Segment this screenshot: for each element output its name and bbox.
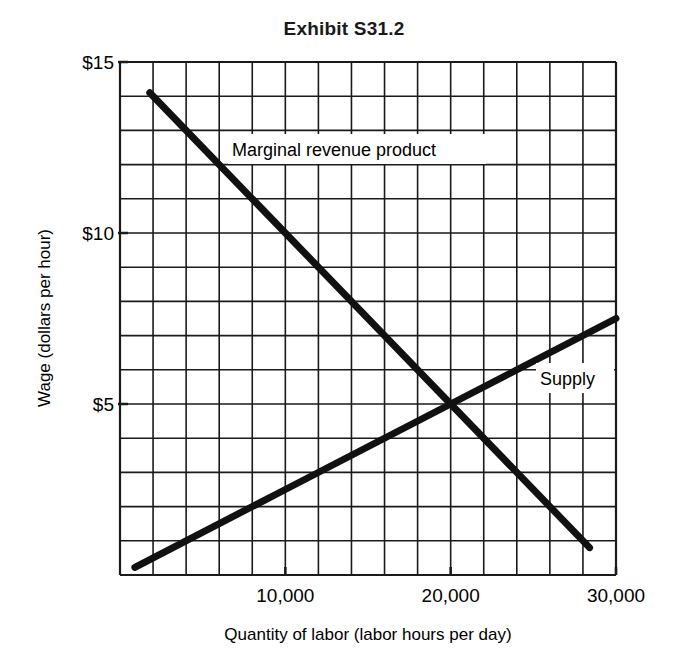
y-tick-label: $10 <box>82 223 114 244</box>
x-tick-label: 30,000 <box>587 585 645 606</box>
series-label: Supply <box>540 369 595 389</box>
x-tick-label: 10,000 <box>256 585 314 606</box>
y-tick-label: $5 <box>93 394 114 415</box>
supply-line <box>135 319 616 568</box>
x-tick-label: 20,000 <box>422 585 480 606</box>
series-label: Marginal revenue product <box>232 140 436 160</box>
y-tick-label: $15 <box>82 52 114 73</box>
x-axis-label: Quantity of labor (labor hours per day) <box>224 625 511 644</box>
chart-canvas: Marginal revenue productSupply $5$10$151… <box>0 0 688 651</box>
y-axis-label: Wage (dollars per hour) <box>35 229 54 407</box>
